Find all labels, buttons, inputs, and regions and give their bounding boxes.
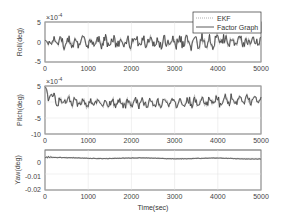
pitch-ytick-neg5: -5 [35,115,41,122]
x-axis-label: Time(sec) [138,204,169,212]
pitch-xtick: 3000 [167,137,183,144]
roll-xtick: 5000 [253,65,269,72]
yaw-subplot: 0 -0.01 -0.02 Yaw(deg) 01000200030004000… [14,150,269,212]
yaw-ytick-0: 0 [37,159,41,166]
yaw-xtick: 0 [43,193,47,200]
roll-xtick: 1000 [80,65,96,72]
yaw-xtick: 1000 [80,193,96,200]
pitch-xtick: 4000 [210,137,226,144]
yaw-xtick: 3000 [167,193,183,200]
legend-ekf-label: EKF [217,15,231,22]
roll-ytick-5: 5 [37,19,41,26]
yaw-ylabel: Yaw(deg) [14,155,22,184]
pitch-xtick: 1000 [80,137,96,144]
pitch-xtick: 5000 [253,137,269,144]
roll-xtick: 3000 [167,65,183,72]
roll-ylabel: Roll(deg) [16,28,24,56]
yaw-xtick: 5000 [253,193,269,200]
yaw-ytick-neg001: -0.01 [25,173,41,180]
pitch-xtick: 2000 [124,137,140,144]
roll-xtick: 4000 [210,65,226,72]
roll-ytick-neg5: -5 [35,58,41,65]
pitch-ytick-5: 5 [37,83,41,90]
legend: EKF Factor Graph [193,12,261,33]
pitch-ylabel: Pitch(deg) [16,94,24,126]
yaw-ytick-neg002: -0.02 [25,186,41,193]
roll-xtick: 0 [43,65,47,72]
roll-ytick-0: 0 [37,39,41,46]
pitch-ytick-0: 0 [37,99,41,106]
yaw-xtick: 2000 [124,193,140,200]
pitch-subplot: 5 0 -5 -10 ×10-4 Pitch(deg) 010002000300… [16,76,269,144]
yaw-xtick: 4000 [210,193,226,200]
roll-xtick: 2000 [124,65,140,72]
attitude-chart: 5 0 -5 ×10-4 Roll(deg) 01000200030004000… [0,0,284,223]
pitch-ytick-neg10: -10 [31,131,41,138]
pitch-exponent: ×10-4 [46,76,63,85]
roll-exponent: ×10-4 [46,12,63,21]
legend-fg-label: Factor Graph [217,24,258,32]
pitch-xtick: 0 [43,137,47,144]
